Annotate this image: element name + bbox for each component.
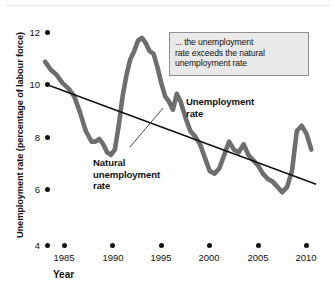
natural-rate-label: Natural unemployment rate bbox=[93, 157, 160, 192]
callout-line-2: rate exceeds the natural bbox=[175, 48, 303, 59]
unemployment-rate-label: Unemployment rate bbox=[186, 96, 254, 119]
natural-rate-label-line-3: rate bbox=[93, 180, 160, 192]
callout-line-1: ... the unemployment bbox=[175, 37, 303, 48]
natural-rate-label-line-1: Natural bbox=[93, 157, 160, 169]
unemployment-rate-label-line-1: Unemployment bbox=[186, 96, 254, 108]
callout-box: ... the unemployment rate exceeds the na… bbox=[169, 32, 309, 76]
unemployment-rate-label-line-2: rate bbox=[186, 108, 254, 120]
natural-rate-label-line-2: unemployment bbox=[93, 169, 160, 181]
callout-line-3: unemployment rate bbox=[175, 58, 303, 69]
natural-rate-leader-line bbox=[130, 108, 163, 147]
unemployment-rate-chart: Unemployment rate (percentage of labour … bbox=[0, 0, 335, 294]
